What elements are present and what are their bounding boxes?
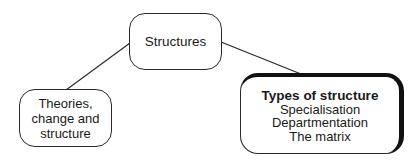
diagram-canvas: Structures Theories, change and structur… bbox=[0, 0, 420, 164]
node-left-line-1: Theories, bbox=[38, 96, 92, 111]
node-left-line-3: structure bbox=[40, 126, 91, 141]
node-right-item-the-matrix: The matrix bbox=[289, 130, 350, 144]
connector-root-to-left bbox=[66, 43, 130, 90]
node-right-item-departmentation: Departmentation bbox=[272, 116, 368, 130]
node-left-line-2: change and bbox=[32, 111, 100, 126]
node-types-of-structure: Types of structure Specialisation Depart… bbox=[240, 73, 404, 154]
node-structures: Structures bbox=[129, 13, 222, 70]
node-right-heading: Types of structure bbox=[262, 89, 379, 103]
node-theories-change-structure: Theories, change and structure bbox=[19, 89, 112, 147]
node-right-item-specialisation: Specialisation bbox=[280, 103, 360, 117]
node-structures-label: Structures bbox=[145, 35, 207, 49]
connector-root-to-right bbox=[221, 42, 301, 74]
